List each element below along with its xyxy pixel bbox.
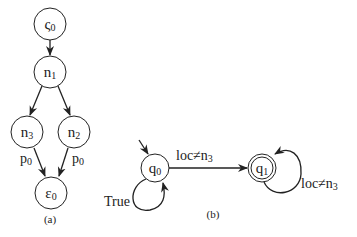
edge-label-n3-e0: p0 [20, 151, 32, 167]
loop-label-q0: True [104, 194, 130, 209]
edge-n1-n2 [58, 86, 70, 115]
caption-b: (b) [207, 208, 220, 221]
edge-label-n2-e0: p0 [72, 151, 84, 167]
state-q0: q0 [141, 154, 169, 182]
node-n2: n2 [58, 116, 90, 148]
edge-n3-e0 [34, 148, 45, 176]
edge-n1-n3 [30, 86, 42, 115]
edge-n2-e0 [59, 148, 68, 176]
node-n3: n3 [11, 116, 43, 148]
loop-label-q1: loc≠n3 [301, 176, 338, 192]
state-q1: q1 [248, 154, 276, 182]
node-e0: ε0 [35, 177, 67, 209]
edge-label-q0-q1: loc≠n3 [176, 148, 213, 164]
diagram-canvas: p0 p0 ς0 n1 n3 n2 ε0 (a) True [0, 0, 357, 237]
panel-b: True loc≠n3 loc≠n3 q0 q1 (b) [104, 140, 338, 221]
initial-arrow [139, 140, 148, 154]
panel-a: p0 p0 ς0 n1 n3 n2 ε0 (a) [11, 8, 90, 226]
node-n1: n1 [34, 56, 66, 88]
self-loop-q0 [133, 179, 164, 210]
caption-a: (a) [44, 213, 57, 226]
node-s0: ς0 [34, 8, 66, 40]
